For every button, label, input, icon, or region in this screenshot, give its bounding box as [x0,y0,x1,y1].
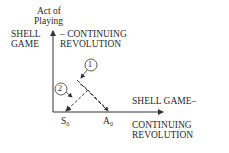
diagram-graphics [0,0,229,153]
marker-2-label: 2 [58,84,62,94]
marker-1-label: 1 [88,60,92,70]
curve-2-dashed [66,90,88,111]
marker-2-leader [66,92,72,97]
marker-1-leader [81,70,87,78]
